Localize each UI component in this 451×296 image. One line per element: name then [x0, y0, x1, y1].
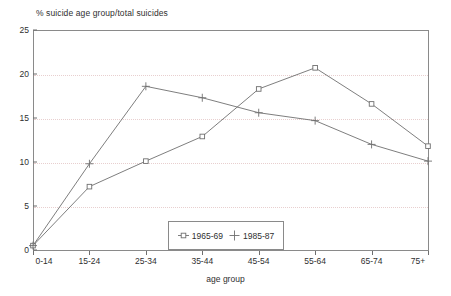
legend-entry-1985-87: 1985-87 [229, 230, 274, 241]
suicide-age-group-chart: % suicide age group/total suicides 05101… [0, 0, 451, 296]
series-line [33, 68, 428, 246]
data-point-square-marker [256, 87, 261, 92]
data-point-square-marker [313, 66, 318, 71]
data-point-square-marker [369, 102, 374, 107]
x-axis-label: age group [0, 274, 451, 284]
chart-legend: 1965-69 1985-87 [168, 221, 284, 250]
square-marker-icon [178, 230, 189, 241]
legend-label-1965-69: 1965-69 [192, 231, 223, 241]
legend-entry-1965-69: 1965-69 [178, 230, 223, 241]
data-point-square-marker [87, 184, 92, 189]
plus-marker-icon [229, 230, 240, 241]
legend-label-1985-87: 1985-87 [243, 231, 274, 241]
data-point-square-marker [200, 134, 205, 139]
data-point-square-marker [144, 159, 149, 164]
data-series-layer [0, 0, 451, 296]
data-point-square-marker [426, 144, 431, 149]
